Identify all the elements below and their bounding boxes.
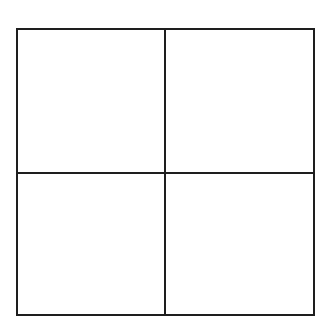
grid-cell-bottom-left	[18, 174, 166, 314]
two-by-two-grid	[16, 28, 315, 316]
grid-cell-bottom-right	[166, 174, 313, 314]
grid-cell-top-right	[166, 30, 313, 174]
grid-cell-top-left	[18, 30, 166, 174]
